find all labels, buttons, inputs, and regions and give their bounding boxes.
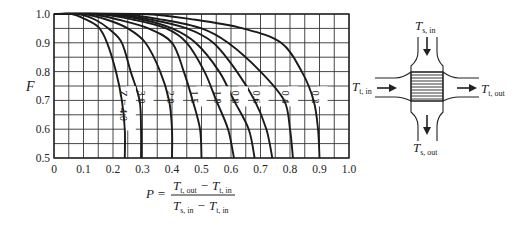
shell-wall-left	[411, 37, 418, 141]
label-shell-in: Ts, in	[415, 18, 436, 35]
x-tick-label: 0.6	[224, 163, 239, 175]
x-tick-label: 0.4	[165, 163, 180, 175]
y-tick-label: 0.9	[36, 37, 51, 49]
curve-label: 0.6	[251, 90, 262, 103]
x-tick-label: 0.9	[312, 163, 327, 175]
y-axis-label: F	[25, 79, 35, 94]
y-axis-ticks: 0.50.60.70.80.91.0	[36, 8, 51, 164]
x-tick-label: 0.5	[194, 163, 209, 175]
curve-label: 0.4	[280, 90, 291, 104]
curve-label: 2.0	[165, 90, 176, 103]
fin-lines	[411, 75, 443, 99]
x-tick-label: 0.1	[76, 163, 91, 175]
label-tube-in: Tt, in	[352, 79, 372, 96]
diagram-labels: Ts, in Ts, out Tt, in Tt, out	[352, 18, 505, 157]
curve-label: 0.2	[310, 90, 321, 103]
shell-wall-right	[437, 37, 443, 141]
y-tick-label: 0.8	[36, 66, 51, 78]
y-tick-label: 0.6	[36, 123, 51, 135]
label-tube-out: Tt, out	[481, 81, 505, 98]
chart: Z = 4.03.02.01.51.00.80.60.40.2 00.10.20…	[0, 0, 527, 225]
x-axis-formula: P = Tt, out−Tt, in Ts, in−Tt, in	[145, 178, 235, 215]
y-tick-label: 0.7	[36, 94, 51, 106]
flow-arrows	[377, 37, 477, 135]
curve-label: 1.0	[212, 90, 223, 103]
y-tick-label: 1.0	[36, 8, 51, 20]
x-axis-ticks: 00.10.20.30.40.50.60.70.80.91.0	[51, 163, 356, 175]
exchanger-core	[411, 72, 443, 101]
x-tick-label: 0	[51, 163, 57, 175]
x-tick-label: 0.8	[283, 163, 298, 175]
x-tick-label: 0.7	[253, 163, 268, 175]
formula-numerator: Tt, out−Tt, in	[173, 178, 232, 195]
curve-label: 1.5	[189, 90, 200, 103]
x-tick-label: 0.2	[106, 163, 121, 175]
curve-labels: Z = 4.03.02.01.51.00.80.60.40.2	[118, 86, 328, 130]
x-tick-label: 1.0	[342, 163, 357, 175]
x-tick-label: 0.3	[135, 163, 150, 175]
curve-label: 3.0	[136, 90, 147, 103]
curve-label: 0.8	[230, 90, 241, 103]
formula-lhs: P =	[145, 186, 166, 201]
curve-label: Z = 4.0	[118, 90, 129, 121]
formula-denominator: Ts, in−Tt, in	[173, 198, 229, 215]
y-tick-label: 0.5	[36, 152, 51, 164]
label-shell-out: Ts, out	[413, 140, 438, 157]
